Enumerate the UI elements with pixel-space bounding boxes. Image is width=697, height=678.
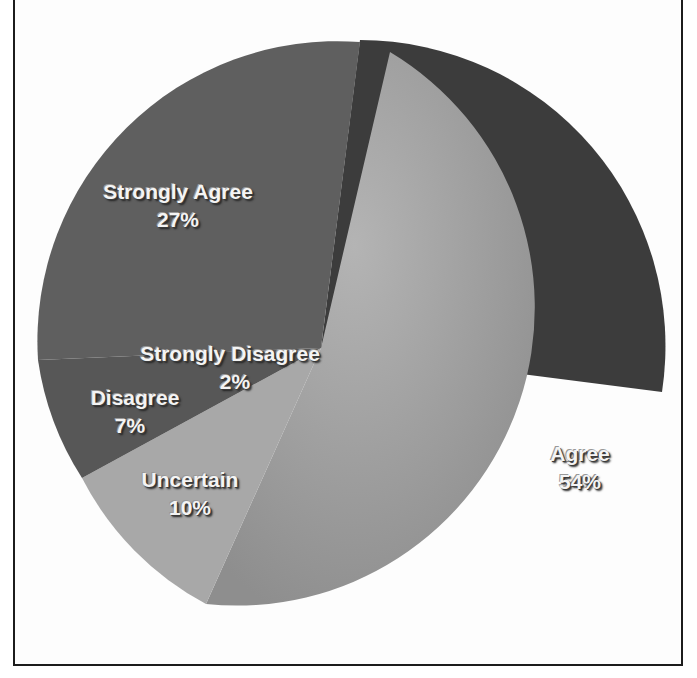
label-pct: 27% <box>78 206 278 234</box>
pie-chart <box>0 0 697 678</box>
label-name: Strongly Disagree <box>100 340 360 368</box>
label-strongly-agree: Strongly Agree 27% <box>78 178 278 234</box>
label-pct: 54% <box>520 468 640 496</box>
label-name: Agree <box>520 440 640 468</box>
label-disagree: Disagree 7% <box>70 384 200 440</box>
label-agree: Agree 54% <box>520 440 640 496</box>
label-pct: 7% <box>60 412 200 440</box>
label-name: Uncertain <box>110 466 270 494</box>
label-name: Strongly Agree <box>78 178 278 206</box>
label-name: Disagree <box>70 384 200 412</box>
label-uncertain: Uncertain 10% <box>110 466 270 522</box>
label-pct: 10% <box>110 494 270 522</box>
